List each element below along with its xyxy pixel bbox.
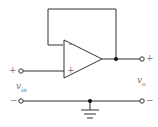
output-minus-terminal	[140, 99, 144, 103]
output-minus-label: −	[146, 96, 154, 105]
ground-node	[88, 99, 92, 103]
opamp-noninverting-label: +	[67, 66, 75, 75]
opamp-inverting-label: −	[68, 40, 76, 49]
circuit-diagram	[0, 0, 158, 127]
output-node	[114, 57, 118, 61]
output-plus-terminal	[140, 57, 144, 61]
input-minus-terminal	[19, 99, 23, 103]
input-voltage-label: vin	[16, 82, 27, 93]
input-plus-label: +	[9, 66, 17, 75]
output-voltage-label: vo	[137, 76, 146, 87]
output-plus-label: +	[146, 54, 154, 63]
input-minus-label: −	[10, 96, 18, 105]
input-plus-terminal	[19, 69, 23, 73]
